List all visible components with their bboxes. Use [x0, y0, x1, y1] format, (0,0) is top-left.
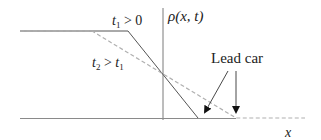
t2-rhs-sub: 1: [119, 62, 124, 72]
axis-label-rho: ρ(x, t): [168, 9, 204, 24]
density-curve-t1: [20, 31, 198, 118]
t1-rel: > 0: [120, 13, 142, 28]
lead-car-label: Lead car: [211, 51, 263, 66]
label-t1: t1 > 0: [112, 14, 142, 30]
diagram-canvas: [0, 0, 321, 140]
label-t2: t2 > t1: [92, 56, 124, 72]
t2-rel: >: [100, 55, 115, 70]
axis-label-x: x: [285, 126, 291, 140]
